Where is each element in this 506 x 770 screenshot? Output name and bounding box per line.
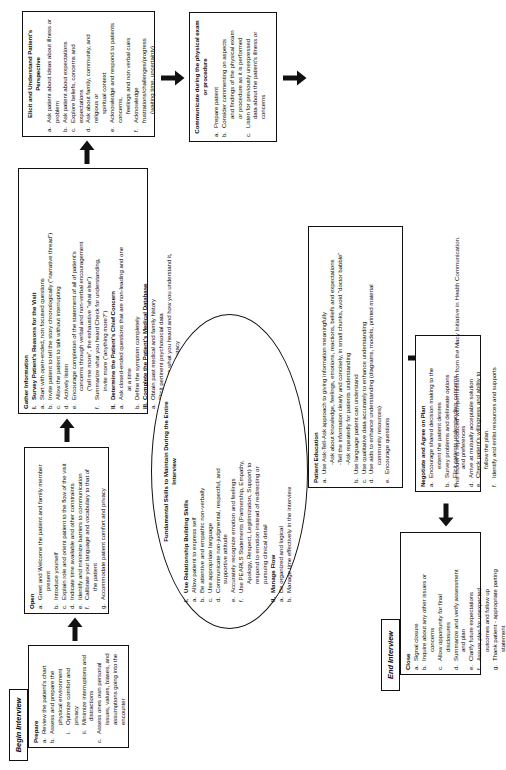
list-item-text: supportive attitude: [221, 534, 228, 584]
list-item-text: Be organized and logical: [276, 526, 283, 593]
list-item: a.Allow patient to express self: [189, 341, 197, 602]
list-item: respond to emotion instead of redirectin…: [253, 341, 261, 602]
list-item-text: Calibrate your language and vocabulary t…: [83, 469, 90, 600]
list-item: b.Introduce yourself: [51, 452, 59, 609]
list-item: Apology, Respect, Legitimization, Suppor…: [245, 341, 253, 602]
list-item-text: Manage Flow: [268, 555, 275, 593]
list-item-text: Inquire about any other issues or: [419, 574, 426, 661]
list-item: statement: [499, 537, 506, 670]
list-item: -Tell the information clearly and concis…: [335, 231, 343, 483]
list-item-text: Use Relationship Building Skills: [181, 500, 188, 593]
list-item-text: Survey problems and delineate options: [442, 374, 449, 478]
list-item-text: feelings and non verbal cues: [124, 38, 131, 114]
list-item-text: Thank patient - appropriate parting: [491, 569, 498, 661]
list-item-text: Use appropriate language: [205, 523, 212, 593]
list-item: a.Review the patient's chart: [39, 650, 47, 743]
list-item-text: invite more ("anything more?"): [101, 311, 108, 391]
box-elicit-perspective: Elicit and Understand Patient's Perspect…: [22, 11, 155, 137]
arrow-open-to-gather: [59, 418, 75, 442]
list-item-marker: c.: [95, 735, 103, 743]
list-item-marker: e.: [75, 601, 83, 609]
list-item-text: Summarize and verify assessment: [451, 569, 458, 661]
list-item-text: Ask about family, community, and religio…: [84, 34, 99, 123]
list-item-marker: b.: [51, 601, 59, 609]
list-item-marker: f.: [83, 601, 91, 609]
list-item: c.Explore beliefs, concerns and expectat…: [68, 16, 84, 132]
box-physical-list: a.Prepare patientb.Consider commenting o…: [211, 17, 266, 137]
list-item-text: Actively listen: [61, 364, 68, 400]
list-item-text: assumptions going into the: [111, 654, 118, 725]
list-item: b.Assess and prepare the: [47, 650, 55, 743]
list-item: d.Communicate non-judgmental, respectful…: [213, 341, 221, 602]
list-item-marker: d.: [67, 601, 75, 609]
list-item-text: Listen for previously unexpressed: [243, 39, 250, 128]
list-item-marker: c.: [59, 601, 67, 609]
list-item-text: Encourage questions: [383, 418, 390, 474]
list-item: disclosures: [443, 537, 451, 670]
box-negotiate-plan: Negotiate and Agree on Plan a.Encourage …: [415, 335, 481, 492]
list-item: a.Prepare patient: [211, 17, 219, 137]
box-negotiate-list: a.Encourage shared decision making to th…: [426, 340, 497, 487]
list-item: b.Manage time effectively in the intervi…: [284, 341, 292, 602]
list-item-text: issues, values, biases, and: [103, 654, 110, 725]
list-item-text: Explain role and orient patient to the f…: [59, 464, 66, 600]
list-item-text: Ask patient about expectations: [60, 42, 67, 124]
list-item: e.Identify and minimize barriers to comm…: [75, 452, 83, 609]
oval-fundamental-skills: Fundamental Skills to Maintain During th…: [151, 314, 308, 629]
list-item-text: Introduce yourself: [51, 552, 58, 600]
box-prepare-heading: Prepare: [32, 650, 40, 743]
list-item: a.Obtain past medical and family history: [148, 173, 156, 409]
list-item: b.Be attentive and empathic non-verbally: [197, 341, 205, 602]
list-item: community resources): [375, 231, 383, 483]
list-item: c.Use appropriate language: [205, 341, 213, 602]
list-item-text: and findings of the physical exam: [227, 31, 234, 119]
list-item-text: Optimize comfort and privacy: [63, 668, 78, 725]
list-item: I.Use Relationship Building Skills: [181, 341, 189, 602]
box-open-list: a.Greet and Welcome the patient and fami…: [35, 452, 106, 609]
list-item-text: Use aids to enhance understanding (diagr…: [367, 284, 374, 474]
box-negotiate-heading: Negotiate and Agree on Plan: [419, 340, 427, 487]
list-item: a.Ask closed-ended questions that are no…: [117, 173, 125, 409]
list-item-text: concerns through verbal and non-verbal e…: [77, 242, 84, 391]
list-item: I.Survey Patient's Reasons for the Visit: [29, 173, 37, 409]
list-item: a.Use Ask-Tell-Ask approach to giving in…: [319, 231, 327, 483]
list-item: -Ask repeatedly for patients understandi…: [343, 231, 351, 483]
box-gather-list: I.Survey Patient's Reasons for the Visit…: [29, 173, 180, 409]
list-item-text: extent the patient desires: [434, 402, 441, 469]
list-item: c.Allow the patient to talk without inte…: [53, 173, 61, 409]
list-item-text: Signal closure: [411, 623, 418, 661]
list-item: e.Check patient's willingness and abilit…: [474, 340, 482, 487]
list-item-text: Consider commenting on aspects: [219, 39, 226, 128]
list-item-marker: f.: [237, 594, 245, 602]
box-close-heading: Close: [404, 537, 412, 670]
box-open-heading: Open: [28, 452, 36, 609]
list-item-marker: e.: [108, 124, 116, 132]
list-item-marker: e.: [467, 662, 475, 670]
box-open: Open a.Greet and Welcome the patient and…: [24, 447, 109, 614]
list-item: f.Identify and enlist resources and supp…: [490, 340, 498, 487]
list-item-text: Be attentive and empathic non-verbally: [197, 488, 204, 593]
list-item: physical environment: [55, 650, 63, 743]
box-gather-heading: Gather Information: [22, 173, 30, 409]
box-education-list: a.Use Ask-Tell-Ask approach to giving in…: [319, 231, 390, 483]
list-item-marker: b.: [60, 124, 68, 132]
list-item-text: Review the patient's chart: [39, 666, 46, 734]
list-item-marker: d.: [367, 475, 375, 483]
list-item-text: spiritual context: [100, 73, 107, 115]
list-item: b.Consider commenting on aspects: [219, 17, 227, 137]
list-item: the patient: [91, 452, 99, 609]
tab-end-interview-label: End Interview: [386, 631, 395, 679]
list-item-text: Allow the patient to talk without interr…: [53, 286, 60, 400]
list-item-text: Accurately recognize emotion and feeling…: [229, 479, 236, 594]
list-item: extent the patient desires: [434, 340, 442, 487]
list-item-marker: b.: [284, 594, 292, 602]
list-item-text: pursuing clinical detail: [261, 524, 268, 584]
list-item-marker: b.: [419, 662, 427, 670]
list-item-text: Explore beliefs, concerns and expectatio…: [68, 45, 83, 124]
list-item-text: Allow opportunity for final: [435, 594, 442, 661]
list-item-text: Encourage shared decision making to the: [426, 368, 433, 478]
list-item-marker: ii.: [79, 726, 87, 734]
list-item-marker: II.: [109, 401, 117, 409]
list-item: and findings of the physical exam: [227, 17, 235, 137]
list-item: a.Be organized and logical: [276, 341, 284, 602]
